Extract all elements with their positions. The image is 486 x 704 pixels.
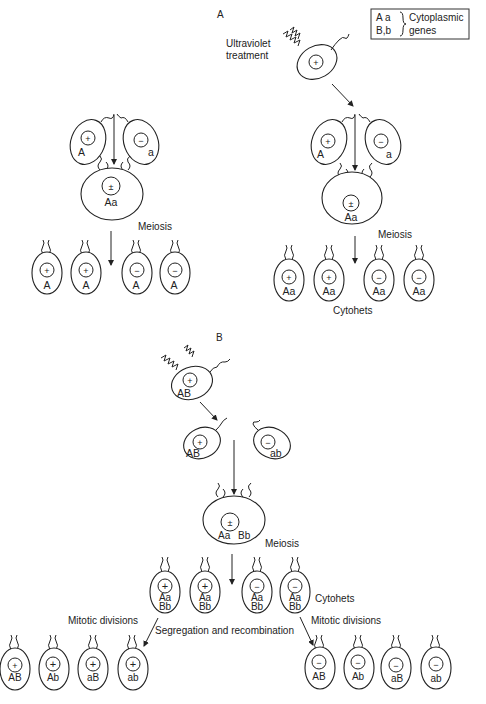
parent-cell-minus: − a [117, 114, 165, 169]
svg-text:+: + [197, 438, 202, 448]
svg-text:−: − [393, 661, 398, 671]
b-uv-treated: + AB [161, 345, 230, 405]
panel-a-label: A [217, 9, 224, 20]
svg-text:+: + [85, 134, 90, 144]
svg-text:AB: AB [177, 387, 191, 399]
svg-text:−: − [376, 273, 381, 283]
svg-text:−: − [172, 266, 177, 276]
legend-text-2: genes [409, 25, 436, 36]
cytohets-label: Cytohets [315, 593, 354, 604]
zygote-cell: ± Aa [81, 156, 143, 220]
svg-text:Ab: Ab [47, 672, 60, 683]
svg-text:a: a [148, 146, 154, 158]
svg-text:A: A [43, 279, 50, 291]
svg-text:+: + [90, 658, 96, 670]
svg-text:ab: ab [127, 672, 139, 683]
svg-text:Bb: Bb [289, 601, 302, 612]
svg-text:±: ± [349, 199, 354, 209]
progeny-cell: − A [122, 240, 152, 294]
progeny-cell: − Aa [364, 245, 394, 301]
progeny-cell: + A [32, 240, 62, 294]
progeny-cell: − Ab [344, 635, 374, 689]
cytohet-cell: + Aa Bb [150, 557, 180, 613]
svg-text:Aa: Aa [105, 196, 118, 208]
svg-text:+: + [83, 266, 88, 276]
genetics-diagram: A A a B,b Cytoplasmic genes Ultraviolet … [0, 0, 486, 704]
svg-text:+: + [130, 658, 136, 670]
svg-text:a: a [386, 148, 392, 160]
svg-text:Bb: Bb [159, 601, 172, 612]
uv-label-1: Ultraviolet [226, 38, 271, 49]
legend-box: A a B,b Cytoplasmic genes [371, 9, 469, 39]
parent-cell-minus: − a [359, 114, 407, 169]
svg-text:A: A [170, 279, 177, 291]
b-cytohets: + Aa Bb + Aa Bb − Aa Bb − Aa Bb [150, 557, 354, 613]
cytohet-cell: − Aa Bb [280, 557, 310, 613]
svg-text:A: A [82, 279, 89, 291]
parent-cell-plus: + A [64, 114, 114, 169]
cytohets-label: Cytohets [333, 305, 372, 316]
legend-genes-1: A a [376, 12, 391, 23]
legend-text-1: Cytoplasmic [409, 12, 463, 23]
svg-text:Aa: Aa [323, 285, 336, 297]
legend-genes-2: B,b [376, 25, 391, 36]
zygote-cell: ± Aa [322, 163, 382, 224]
uv-rays-icon-2 [184, 345, 194, 357]
svg-text:A: A [78, 146, 85, 158]
svg-text:AB: AB [312, 671, 326, 682]
svg-text:AB: AB [8, 672, 22, 683]
segregation-label: Segregation and recombination [155, 625, 294, 636]
meiosis-label: Meiosis [138, 221, 172, 232]
svg-text:ab: ab [430, 673, 442, 684]
svg-text:+: + [326, 273, 331, 283]
panel-b-label: B [216, 332, 223, 343]
progeny-cell: + Ab [39, 635, 69, 690]
meiosis-label: Meiosis [265, 538, 299, 549]
progeny-cell: + Aa [314, 245, 344, 301]
parent-cell-minus: − ab [248, 420, 295, 465]
svg-text:+: + [313, 58, 318, 68]
progeny-cell: + aB [78, 635, 108, 690]
uv-label-2: treatment [226, 50, 268, 61]
svg-text:±: ± [228, 518, 233, 528]
svg-text:−: − [416, 273, 421, 283]
progeny-cell: + A [71, 240, 101, 294]
svg-text:aB: aB [391, 673, 404, 684]
progeny-cell: + ab [118, 635, 148, 690]
b-left-progeny: + AB + Ab + aB + ab [0, 635, 148, 690]
parent-cell-plus: + AB [178, 418, 227, 465]
a-left-mating: + A − a ± Aa Meiosis [64, 114, 172, 265]
svg-text:+: + [325, 137, 330, 147]
svg-text:Bb: Bb [199, 601, 212, 612]
svg-text:−: − [134, 266, 139, 276]
progeny-cell: + AB [0, 635, 30, 690]
svg-text:Aa: Aa [218, 530, 231, 541]
arrow [200, 402, 217, 420]
svg-text:−: − [355, 658, 360, 668]
a-right-progeny: + Aa + Aa − Aa − Aa Cytohets [274, 245, 434, 316]
svg-text:+: + [162, 580, 168, 592]
svg-text:+: + [187, 376, 192, 386]
svg-text:A: A [132, 279, 139, 291]
svg-text:Aa: Aa [413, 285, 426, 297]
svg-text:−: − [265, 438, 270, 448]
a-right-mating: + A − a ± Aa Meiosis [305, 114, 412, 263]
svg-text:+: + [12, 661, 17, 671]
progeny-cell: − AB [305, 635, 335, 689]
b-mating: + AB − ab ± Aa Bb Meiosis [178, 418, 298, 584]
progeny-cell: − A [160, 240, 190, 294]
svg-text:Aa: Aa [283, 285, 296, 297]
progeny-cell: − ab [421, 635, 451, 689]
b-right-progeny: − AB − Ab − aB − ab [305, 635, 451, 689]
svg-text:−: − [316, 658, 321, 668]
uv-rays-icon [161, 355, 178, 370]
svg-text:−: − [433, 660, 438, 670]
meiosis-label: Meiosis [378, 229, 412, 240]
progeny-cell: − Aa [404, 245, 434, 301]
svg-text:−: − [254, 582, 259, 592]
svg-text:+: + [202, 580, 208, 592]
cytohet-cell: − Aa Bb [242, 557, 272, 613]
svg-text:+: + [44, 266, 49, 276]
svg-text:+: + [50, 658, 56, 670]
mitotic-divisions-left-label: Mitotic divisions [68, 615, 138, 626]
